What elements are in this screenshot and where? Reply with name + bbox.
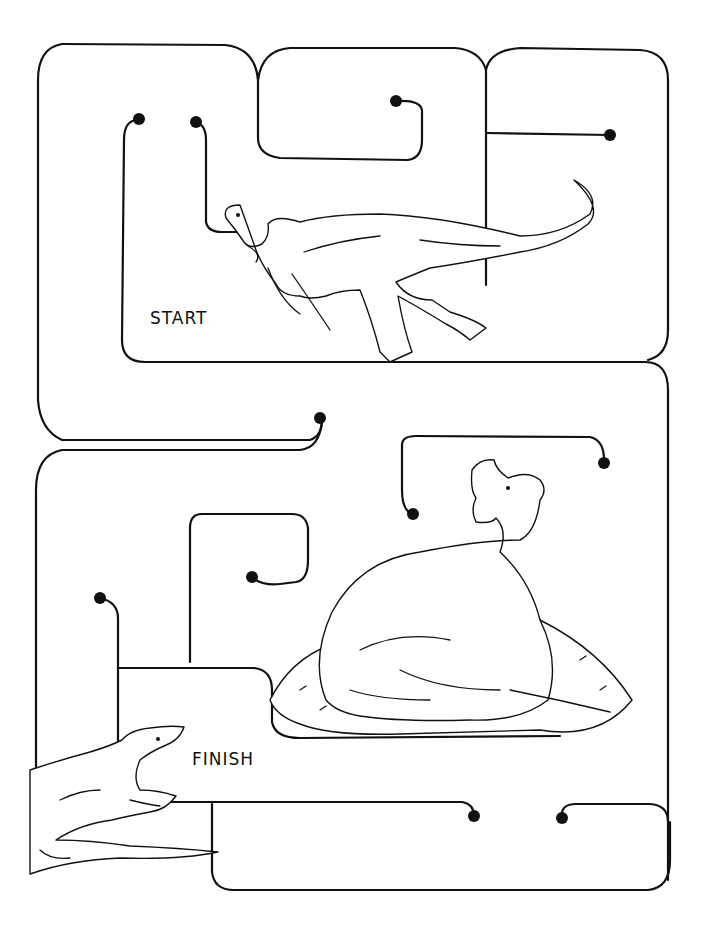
oviraptor-running-illustration (225, 180, 593, 362)
maze-wall (170, 802, 474, 816)
oviraptor-nest-illustration (270, 460, 632, 735)
maze-dot (598, 457, 610, 469)
maze-wall (62, 420, 322, 450)
maze-dot (133, 113, 145, 125)
maze-dot (94, 592, 106, 604)
maze-dot (604, 129, 616, 141)
lizard-illustration (30, 726, 218, 874)
maze-dot (314, 412, 326, 424)
finish-label: FINISH (192, 749, 254, 769)
maze-wall (562, 804, 668, 822)
maze-wall (212, 804, 670, 890)
maze-wall (190, 514, 308, 662)
maze-dot (468, 810, 480, 822)
maze-dot (246, 571, 258, 583)
start-label: START (150, 308, 207, 328)
maze-board (0, 0, 707, 927)
maze-dot (407, 508, 419, 520)
maze-wall (36, 450, 62, 780)
maze-dot (556, 812, 568, 824)
maze-wall (486, 133, 610, 135)
maze-dot (390, 95, 402, 107)
maze-dot (190, 116, 202, 128)
maze-wall (62, 44, 422, 160)
